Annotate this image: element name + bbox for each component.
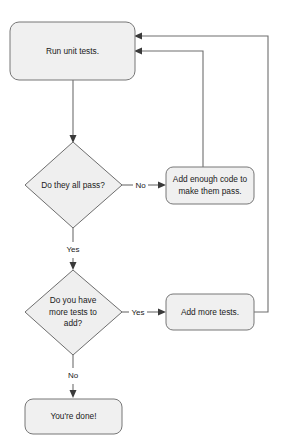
edge-label-more-tests-yes: Yes (131, 308, 144, 317)
node-label-more-tests-line2: more tests to (49, 307, 97, 317)
edge-pass-yes-to-more-tests-decision: Yes (66, 228, 79, 270)
edge-label-pass-no: No (135, 181, 146, 190)
edge-pass-no-to-add-code: No (122, 181, 166, 190)
node-label-run-unit-tests: Run unit tests. (46, 46, 99, 56)
node-run-unit-tests[interactable]: Run unit tests. (10, 22, 135, 80)
arrow-head-right-icon (158, 182, 166, 189)
node-label-youre-done: You're done! (50, 411, 96, 421)
arrow-head-down-icon (70, 390, 77, 398)
node-label-do-they-all-pass: Do they all pass? (41, 180, 105, 190)
edge-label-more-tests-no: No (68, 371, 79, 380)
arrow-head-down-icon (70, 262, 77, 270)
node-label-more-tests-line3: add? (64, 318, 83, 328)
node-do-you-have-more-tests[interactable]: Do you have more tests to add? (25, 270, 122, 355)
flowchart-svg: Add enough code --> No Do you have more … (0, 0, 283, 443)
node-label-more-tests-line1: Do you have (50, 295, 97, 305)
arrow-head-right-icon (158, 309, 166, 316)
edge-path-loop-inner (142, 51, 203, 167)
node-do-they-all-pass[interactable]: Do they all pass? (25, 142, 122, 228)
node-label-add-enough-code-line2: make them pass. (178, 186, 241, 196)
node-add-enough-code[interactable]: Add enough code to make them pass. (166, 167, 254, 204)
node-label-add-more-tests: Add more tests. (181, 307, 239, 317)
node-youre-done[interactable]: You're done! (25, 399, 122, 434)
edge-run-tests-to-pass-decision (70, 80, 77, 143)
node-add-more-tests[interactable]: Add more tests. (166, 294, 254, 330)
edge-more-tests-yes-to-add-more-tests: Yes (122, 308, 166, 317)
node-label-add-enough-code-line1: Add enough code to (173, 174, 248, 184)
edge-add-code-back-to-run-tests (134, 48, 203, 168)
edge-label-pass-yes: Yes (66, 245, 79, 254)
edge-more-tests-no-to-done: No (68, 355, 79, 398)
flowchart-canvas: Add enough code --> No Do you have more … (0, 0, 283, 443)
